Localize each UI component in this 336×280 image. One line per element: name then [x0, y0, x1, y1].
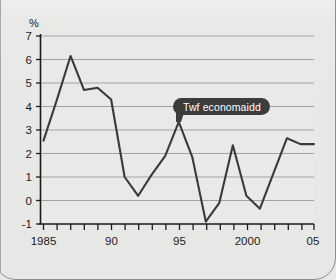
y-tick-marks — [36, 36, 40, 224]
y-tick-label-neg1: -1 — [22, 218, 32, 230]
x-tick-label-2005: 05 — [307, 235, 320, 247]
y-axis-unit-label: % — [29, 17, 39, 29]
annotation-callout-pointer — [176, 113, 184, 122]
y-tick-label-2: 2 — [26, 148, 32, 160]
x-tick-label-1985: 1985 — [31, 235, 57, 247]
annotation-callout-label: Twf economaidd — [183, 101, 261, 113]
x-tick-marks — [44, 224, 315, 230]
y-tick-label-3: 3 — [26, 124, 32, 136]
annotation-callout[interactable]: Twf economaidd — [173, 98, 270, 115]
x-tick-label-1995: 95 — [173, 235, 186, 247]
y-tick-label-6: 6 — [26, 54, 32, 66]
x-tick-label-2000: 2000 — [235, 235, 261, 247]
y-tick-label-0: 0 — [26, 195, 32, 207]
y-tick-label-1: 1 — [26, 171, 32, 183]
y-tick-label-4: 4 — [26, 101, 33, 113]
y-tick-label-7: 7 — [26, 30, 32, 42]
x-tick-label-1990: 90 — [105, 235, 118, 247]
y-tick-label-5: 5 — [26, 77, 32, 89]
